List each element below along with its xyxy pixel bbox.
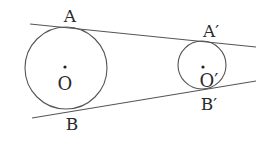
tangent-circles-diagram: A B A′ B′ O O′: [0, 0, 273, 147]
label-O: O: [58, 73, 73, 94]
label-A-prime: A′: [202, 21, 219, 41]
center-point-O-prime: [201, 65, 204, 68]
center-point-O: [63, 65, 66, 68]
label-O-prime: O′: [200, 70, 219, 91]
diagram-svg: A B A′ B′ O O′: [0, 0, 273, 147]
label-B-prime: B′: [201, 94, 217, 114]
label-B: B: [66, 114, 79, 134]
label-A: A: [63, 6, 77, 26]
